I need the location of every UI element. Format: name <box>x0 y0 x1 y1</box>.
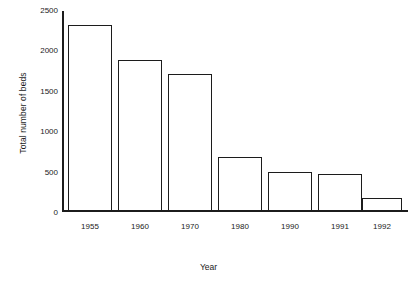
x-tick-label: 1991 <box>331 222 349 231</box>
x-tick-label: 1970 <box>181 222 199 231</box>
x-tick-label: 1955 <box>81 222 99 231</box>
y-tick-label: 500 <box>32 169 58 177</box>
x-axis-line <box>62 210 408 212</box>
y-tick-label: 2500 <box>32 7 58 15</box>
y-tick-label: 2000 <box>32 47 58 55</box>
bar-chart-figure: Total number of beds 2500 2000 1500 1000… <box>0 0 417 288</box>
x-tick-label: 1980 <box>231 222 249 231</box>
y-tick-label: 1000 <box>32 128 58 136</box>
plot-area <box>62 11 408 212</box>
x-axis-tick-labels: 1955 1960 1970 1980 1990 1991 1992 <box>62 222 408 236</box>
y-axis-tick-labels: 2500 2000 1500 1000 500 0 <box>28 0 58 288</box>
y-tick-label: 0 <box>32 209 58 217</box>
x-tick-label: 1990 <box>281 222 299 231</box>
bar-1992 <box>362 198 402 210</box>
x-tick-label: 1992 <box>373 222 391 231</box>
bar-1991 <box>318 174 362 210</box>
bar-1980 <box>218 157 262 210</box>
bar-1970 <box>168 74 212 210</box>
bar-1960 <box>118 60 162 210</box>
bar-series <box>62 11 408 210</box>
x-axis-label: Year <box>0 262 417 272</box>
x-tick-label: 1960 <box>131 222 149 231</box>
bar-1955 <box>68 25 112 210</box>
y-tick-label: 1500 <box>32 88 58 96</box>
bar-1990 <box>268 172 312 210</box>
y-axis-label: Total number of beds <box>18 43 28 183</box>
